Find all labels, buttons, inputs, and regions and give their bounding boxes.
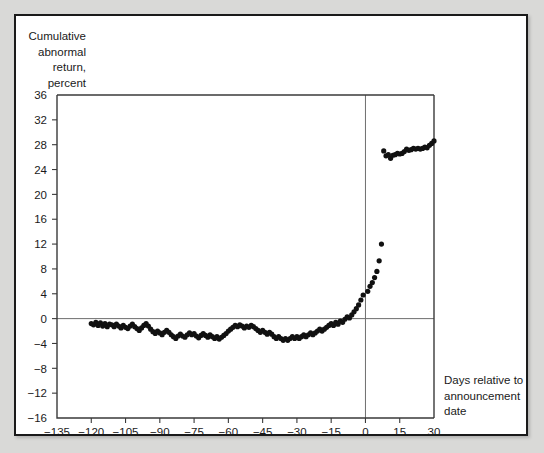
y-tick-label-9: 20 (34, 189, 47, 201)
y-tick-label-12: 32 (34, 114, 47, 126)
data-point (381, 148, 386, 153)
y-tick-label-0: −16 (27, 412, 47, 424)
y-tick-label-10: 24 (34, 164, 47, 176)
cumulative-abnormal-return-chart: Cumulativeabnormalreturn,percent−16−12−8… (0, 0, 544, 453)
y-tick-label-8: 16 (34, 213, 47, 225)
x-tick-label-2: −105 (113, 426, 139, 438)
axis-spines (57, 95, 434, 418)
x-tick-label-10: 15 (393, 426, 406, 438)
y-tick-label-6: 8 (41, 263, 47, 275)
x-tick-label-9: 0 (362, 426, 368, 438)
y-tick-label-7: 12 (34, 238, 47, 250)
y-tick-label-4: 0 (41, 313, 47, 325)
x-tick-label-5: −60 (219, 426, 239, 438)
x-tick-label-11: 30 (428, 426, 441, 438)
x-tick-label-0: −135 (44, 426, 70, 438)
x-tick-label-7: −30 (287, 426, 307, 438)
y-tick-label-13: 36 (34, 89, 47, 101)
x-tick-label-8: −15 (321, 426, 341, 438)
y-axis-title-line-0: Cumulative (28, 30, 86, 42)
data-point (379, 241, 384, 246)
y-tick-label-1: −12 (27, 387, 47, 399)
y-axis-title-line-2: return, (53, 61, 86, 73)
data-point (431, 138, 436, 143)
x-axis-title-line-0: Days relative to (444, 374, 523, 386)
data-point (358, 297, 363, 302)
y-axis-title-line-1: abnormal (38, 46, 86, 58)
x-tick-label-6: −45 (253, 426, 273, 438)
y-tick-label-3: −4 (34, 338, 48, 350)
y-tick-label-11: 28 (34, 139, 47, 151)
y-axis-title-line-3: percent (48, 77, 87, 89)
data-point (361, 292, 366, 297)
data-point (372, 275, 377, 280)
data-point-group (89, 138, 437, 343)
x-axis-title-line-1: announcement (444, 390, 521, 402)
data-point (370, 280, 375, 285)
x-axis-title-line-2: date (444, 405, 466, 417)
data-point (365, 289, 370, 294)
data-point (374, 269, 379, 274)
data-point (356, 302, 361, 307)
y-tick-label-2: −8 (34, 363, 47, 375)
x-tick-label-1: −120 (78, 426, 104, 438)
data-point (377, 258, 382, 263)
x-tick-label-4: −75 (184, 426, 204, 438)
y-tick-label-5: 4 (41, 288, 48, 300)
chart-root: Cumulativeabnormalreturn,percent−16−12−8… (0, 0, 544, 453)
x-tick-label-3: −90 (150, 426, 170, 438)
